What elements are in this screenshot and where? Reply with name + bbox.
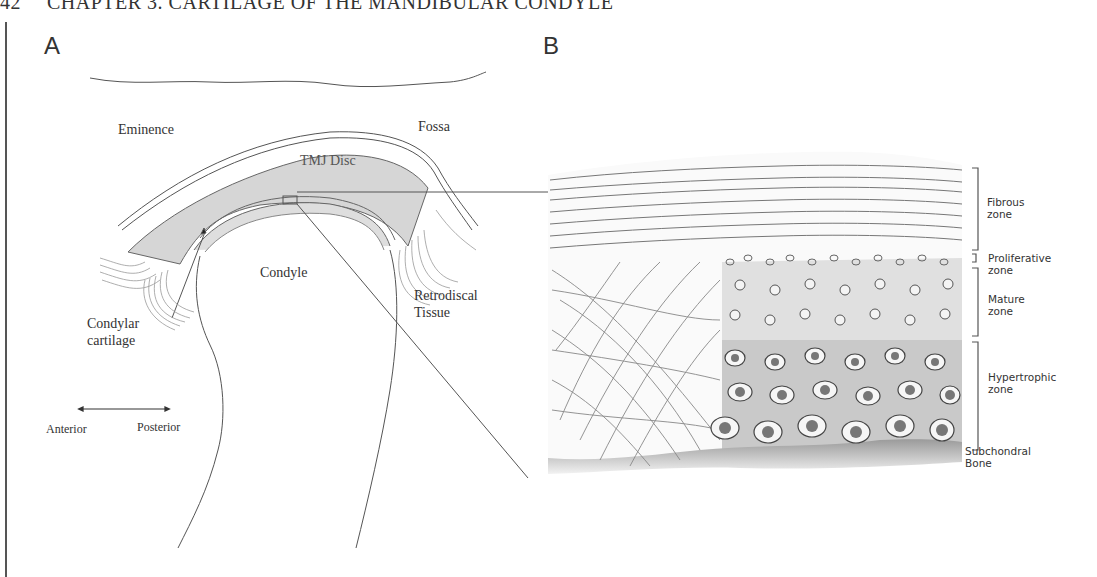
zone-label-fibrous: Fibrous zone [987, 196, 1025, 220]
zone-label-hypertrophic: Hypertrophic zone [988, 371, 1056, 395]
panel-b-drawing [548, 152, 978, 474]
label-condylar-cartilage: Condylar cartilage [87, 316, 139, 350]
label-anterior: Anterior [46, 422, 87, 436]
label-eminence: Eminence [118, 122, 174, 139]
zone-label-mature: Mature zone [988, 293, 1025, 317]
figure-drawing [0, 0, 1097, 577]
panel-a-drawing [80, 72, 548, 548]
zone-label-subchondral-bone: Subchondral Bone [965, 445, 1031, 469]
label-condyle: Condyle [260, 265, 307, 282]
label-fossa: Fossa [418, 119, 450, 136]
zone-label-proliferative: Proliferative zone [988, 252, 1051, 276]
label-tmj-disc: TMJ Disc [300, 153, 356, 170]
label-retrodiscal-tissue: Retrodiscal Tissue [414, 288, 478, 322]
label-posterior: Posterior [137, 420, 180, 434]
